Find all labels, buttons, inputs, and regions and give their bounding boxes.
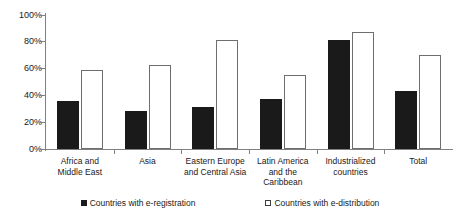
category-label-line: Industrialized xyxy=(317,156,385,167)
category-label-line: Eastern Europe xyxy=(181,156,249,167)
x-axis-separator-tick xyxy=(114,150,115,154)
category-label-line: and Central Asia xyxy=(181,167,249,178)
x-axis-category-label: Asia xyxy=(114,156,182,167)
legend-label: Countries with e-distribution xyxy=(274,198,379,208)
y-axis-label: 20% xyxy=(8,118,42,127)
plot-area xyxy=(46,15,452,149)
x-axis-separator-tick xyxy=(249,150,250,154)
x-axis-category-label: Latin Americaand theCaribbean xyxy=(249,156,317,188)
y-axis-label: 60% xyxy=(8,64,42,73)
filled-square-icon xyxy=(81,200,87,206)
bar-e-distribution xyxy=(149,65,171,149)
category-label-line: Caribbean xyxy=(249,177,317,188)
legend-item-e-registration: Countries with e-registration xyxy=(81,198,196,208)
category-label-line: Middle East xyxy=(46,167,114,178)
bar-e-registration xyxy=(328,40,350,149)
bar-e-registration xyxy=(395,91,417,149)
bar-e-distribution xyxy=(352,32,374,149)
bar-e-registration xyxy=(192,107,214,149)
category-label-line: Africa and xyxy=(46,156,114,167)
bar-e-distribution xyxy=(81,70,103,149)
bar-group xyxy=(328,15,374,149)
bar-e-distribution xyxy=(284,75,306,149)
bar-group xyxy=(57,15,103,149)
legend-item-e-distribution: Countries with e-distribution xyxy=(265,198,379,208)
bar-chart: 100% 80% 60% 40% 20% 0% Africa andMiddle… xyxy=(0,0,460,222)
category-label-line: countries xyxy=(317,167,385,178)
category-label-line: Latin America xyxy=(249,156,317,167)
x-axis-category-label: Industrializedcountries xyxy=(317,156,385,177)
hollow-square-icon xyxy=(265,200,271,206)
y-axis-label: 100% xyxy=(8,11,42,20)
bar-e-registration xyxy=(260,99,282,149)
x-axis-separator-tick xyxy=(181,150,182,154)
bar-group xyxy=(125,15,171,149)
bar-e-distribution xyxy=(419,55,441,149)
category-label-line: Asia xyxy=(114,156,182,167)
y-axis-label: 0% xyxy=(8,145,42,154)
bar-group xyxy=(192,15,238,149)
bar-e-distribution xyxy=(216,40,238,149)
chart-legend: Countries with e-registration Countries … xyxy=(0,198,460,208)
x-axis-separator-tick xyxy=(384,150,385,154)
category-label-line: Total xyxy=(384,156,452,167)
y-axis-label: 40% xyxy=(8,91,42,100)
x-axis-category-label: Eastern Europeand Central Asia xyxy=(181,156,249,177)
bar-e-registration xyxy=(125,111,147,149)
x-axis-category-label: Total xyxy=(384,156,452,167)
x-axis-separator-tick xyxy=(317,150,318,154)
y-axis-label: 80% xyxy=(8,37,42,46)
bar-group xyxy=(260,15,306,149)
legend-label: Countries with e-registration xyxy=(90,198,196,208)
bar-e-registration xyxy=(57,101,79,149)
bar-group xyxy=(395,15,441,149)
category-label-line: and the xyxy=(249,167,317,178)
x-axis-category-label: Africa andMiddle East xyxy=(46,156,114,177)
